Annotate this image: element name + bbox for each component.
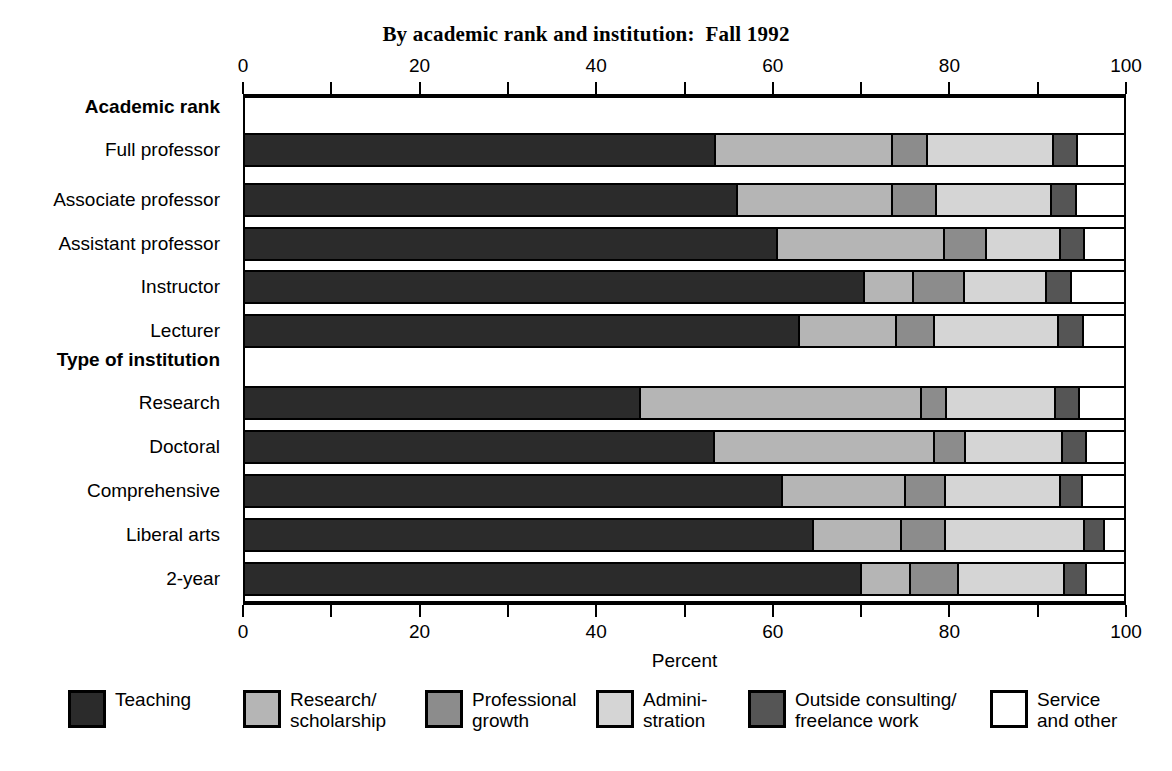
bar-segment-outside-consulting-freelance-work <box>1051 183 1076 217</box>
bar-segment-teaching <box>243 474 782 508</box>
bar-segment-professional-growth <box>944 227 986 261</box>
legend-item-teaching[interactable]: Teaching <box>68 688 191 728</box>
axis-tick-label: 40 <box>586 621 607 643</box>
legend-item-admini-stration[interactable]: Admini- stration <box>596 688 707 731</box>
bar-segment-outside-consulting-freelance-work <box>1053 133 1077 167</box>
plot-area <box>243 97 1126 601</box>
stacked-bar <box>243 183 1126 217</box>
bar-row <box>243 518 1126 552</box>
bar-segment-admini-stration <box>934 314 1058 348</box>
legend-swatch-icon <box>596 690 634 728</box>
axis-tick <box>1125 605 1127 617</box>
axis-tick <box>242 605 244 617</box>
axis-category-label-full-professor: Full professor <box>105 139 220 161</box>
axis-tick <box>948 82 950 94</box>
bar-segment-outside-consulting-freelance-work <box>1084 518 1104 552</box>
legend: TeachingResearch/ scholarshipProfessiona… <box>0 688 1172 758</box>
axis-tick-label: 80 <box>939 621 960 643</box>
bar-segment-teaching <box>243 183 737 217</box>
axis-category-label-doctoral: Doctoral <box>149 436 220 458</box>
bar-segment-research-scholarship <box>777 227 944 261</box>
stacked-bar <box>243 474 1126 508</box>
bar-row <box>243 183 1126 217</box>
bar-segment-professional-growth <box>901 518 945 552</box>
bar-segment-service-and-other <box>1084 227 1126 261</box>
category-axis-labels: Academic rankFull professorAssociate pro… <box>0 97 232 601</box>
bar-segment-service-and-other <box>1076 183 1126 217</box>
bar-segment-research-scholarship <box>714 430 935 464</box>
bar-segment-service-and-other <box>1086 562 1126 596</box>
bar-segment-professional-growth <box>896 314 934 348</box>
legend-swatch-icon <box>425 690 463 728</box>
axis-tick <box>860 82 862 94</box>
axis-category-label-associate-professor: Associate professor <box>53 189 220 211</box>
stacked-bar <box>243 386 1126 420</box>
bar-segment-admini-stration <box>945 474 1060 508</box>
stacked-bar <box>243 133 1126 167</box>
axis-category-label-research: Research <box>139 392 220 414</box>
legend-item-outside-consulting-freelance-work[interactable]: Outside consulting/ freelance work <box>748 688 957 731</box>
bar-segment-outside-consulting-freelance-work <box>1060 227 1085 261</box>
axis-category-label-instructor: Instructor <box>141 276 220 298</box>
axis-category-label-lecturer: Lecturer <box>150 320 220 342</box>
bar-segment-professional-growth <box>892 183 936 217</box>
axis-category-label-comprehensive: Comprehensive <box>87 480 220 502</box>
bar-segment-research-scholarship <box>864 270 913 304</box>
bar-row <box>243 430 1126 464</box>
axis-tick-label: 100 <box>1110 621 1142 643</box>
bar-row <box>243 314 1126 348</box>
bar-segment-research-scholarship <box>782 474 906 508</box>
bar-segment-admini-stration <box>986 227 1059 261</box>
bar-segment-professional-growth <box>910 562 959 596</box>
bar-segment-research-scholarship <box>737 183 892 217</box>
legend-swatch-icon <box>748 690 786 728</box>
bar-segment-service-and-other <box>1071 270 1126 304</box>
bar-segment-service-and-other <box>1083 314 1126 348</box>
bar-segment-professional-growth <box>892 133 927 167</box>
top-axis-tick-labels: 020406080100 <box>243 55 1126 77</box>
bar-segment-service-and-other <box>1086 430 1126 464</box>
stacked-bar <box>243 430 1126 464</box>
stacked-bar <box>243 270 1126 304</box>
axis-tick <box>242 82 244 94</box>
axis-tick <box>772 605 774 617</box>
bar-segment-outside-consulting-freelance-work <box>1062 430 1086 464</box>
axis-category-label-liberal-arts: Liberal arts <box>126 524 220 546</box>
legend-label: Service and other <box>1037 688 1117 731</box>
axis-tick <box>860 605 862 617</box>
axis-group-label-type-of-institution: Type of institution <box>57 349 220 371</box>
axis-tick <box>419 605 421 617</box>
axis-tick-label: 20 <box>409 55 430 77</box>
axis-tick <box>1125 82 1127 94</box>
axis-tick-label: 0 <box>238 621 249 643</box>
legend-item-service-and-other[interactable]: Service and other <box>990 688 1117 731</box>
chart-root: By academic rank and institution: Fall 1… <box>0 0 1172 771</box>
bar-segment-outside-consulting-freelance-work <box>1060 474 1082 508</box>
legend-item-research-scholarship[interactable]: Research/ scholarship <box>243 688 386 731</box>
axis-category-label-2-year: 2-year <box>166 568 220 590</box>
axis-tick <box>1037 605 1039 617</box>
bottom-axis-ticks <box>243 605 1126 617</box>
axis-tick <box>330 605 332 617</box>
bar-segment-outside-consulting-freelance-work <box>1055 386 1079 420</box>
bar-row <box>243 270 1126 304</box>
legend-swatch-icon <box>68 690 106 728</box>
axis-tick <box>419 82 421 94</box>
bottom-axis-tick-labels: 020406080100 <box>243 621 1126 643</box>
bar-segment-professional-growth <box>934 430 965 464</box>
bar-segment-teaching <box>243 386 640 420</box>
bar-segment-teaching <box>243 227 777 261</box>
stacked-bar <box>243 518 1126 552</box>
axis-tick <box>330 82 332 94</box>
bar-segment-research-scholarship <box>640 386 921 420</box>
bar-segment-outside-consulting-freelance-work <box>1064 562 1086 596</box>
bar-segment-service-and-other <box>1079 386 1126 420</box>
bar-segment-admini-stration <box>945 518 1084 552</box>
legend-item-professional-growth[interactable]: Professional growth <box>425 688 577 731</box>
legend-swatch-icon <box>243 690 281 728</box>
bar-segment-teaching <box>243 314 799 348</box>
bar-segment-outside-consulting-freelance-work <box>1046 270 1071 304</box>
legend-label: Outside consulting/ freelance work <box>795 688 957 731</box>
bar-segment-professional-growth <box>921 386 946 420</box>
stacked-bar <box>243 314 1126 348</box>
